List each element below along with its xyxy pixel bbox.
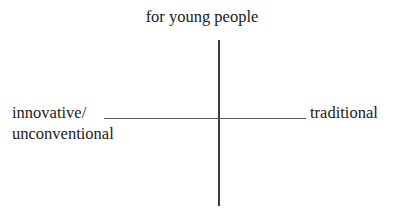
axis-diagram: for young people innovative/ unconventio…	[0, 0, 404, 218]
axis-label-left: innovative/ unconventional	[12, 102, 114, 144]
axis-label-right: traditional	[310, 105, 378, 122]
axis-label-top: for young people	[0, 9, 404, 26]
cropped-text-remnant	[0, 0, 404, 2]
horizontal-axis-line	[104, 118, 306, 119]
axis-label-left-line-1: innovative/	[12, 102, 114, 123]
axis-label-left-line-2: unconventional	[12, 123, 114, 144]
vertical-axis-line	[218, 40, 220, 206]
